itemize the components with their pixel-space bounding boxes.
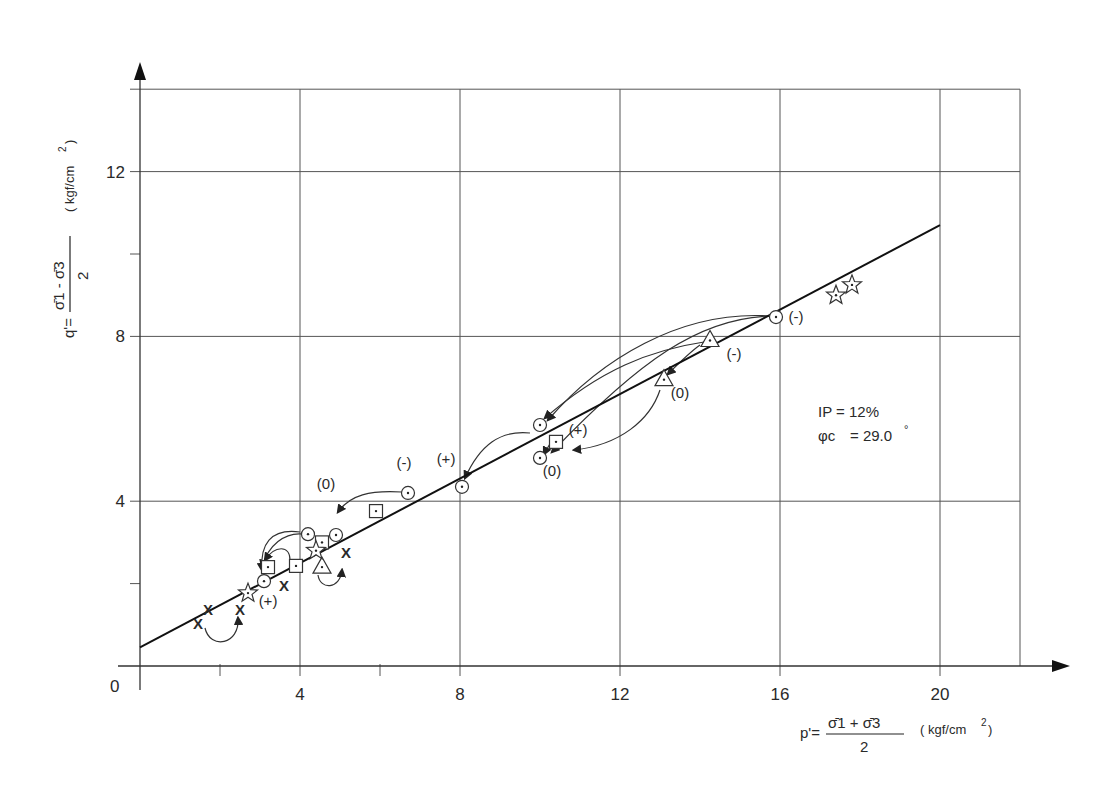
x-label-close: ) bbox=[988, 722, 992, 737]
path-label: (0) bbox=[317, 475, 335, 492]
x-marker-icon: X bbox=[203, 601, 213, 618]
marker-center-dot bbox=[375, 510, 377, 512]
path-label: (-) bbox=[397, 454, 412, 471]
y-axis-label: q'= σ̄1 - σ̄3 2 ( kgf/cm 2 ) bbox=[50, 140, 91, 338]
marker-center-dot bbox=[539, 457, 541, 459]
x-label-sup: 2 bbox=[981, 717, 987, 728]
stress-path-arrow bbox=[545, 342, 704, 418]
x-marker-icon: X bbox=[235, 601, 245, 618]
triangle-marker-icon bbox=[313, 557, 331, 573]
y-axis-arrow-icon bbox=[134, 62, 146, 80]
marker-center-dot bbox=[295, 565, 297, 567]
path-label: (-) bbox=[789, 308, 804, 325]
annotation-ip-phi: IP = 12% φc = 29.0 ° bbox=[818, 403, 908, 444]
marker-center-dot bbox=[709, 339, 711, 341]
stress-path-arrow bbox=[574, 390, 660, 450]
data-markers: XXXXX bbox=[193, 275, 862, 632]
x-marker-icon: X bbox=[193, 615, 203, 632]
x-label-numerator: σ̄1 + σ̄3 bbox=[828, 714, 880, 731]
y-label-close: ) bbox=[62, 140, 77, 144]
path-label: (+) bbox=[437, 450, 456, 467]
y-label-q: q'= bbox=[60, 318, 77, 338]
x-axis-label: p'= σ̄1 + σ̄3 2 ( kgf/cm 2 ) bbox=[800, 714, 992, 755]
marker-center-dot bbox=[539, 424, 541, 426]
x-axis-arrow-icon bbox=[1052, 660, 1070, 672]
y-label-unit: ( kgf/cm bbox=[62, 166, 77, 212]
marker-center-dot bbox=[461, 486, 463, 488]
path-label: (0) bbox=[671, 384, 689, 401]
x-label-denominator: 2 bbox=[860, 738, 868, 755]
marker-center-dot bbox=[835, 294, 837, 296]
stress-paths bbox=[205, 316, 770, 642]
marker-center-dot bbox=[307, 533, 309, 535]
x-label-p: p'= bbox=[800, 724, 820, 741]
path-label: (+) bbox=[259, 592, 278, 609]
x-label-unit: ( kgf/cm bbox=[920, 722, 966, 737]
annotation-phi-value: = 29.0 bbox=[850, 427, 892, 444]
x-marker-icon: X bbox=[341, 544, 351, 561]
triangle-marker-icon bbox=[701, 331, 719, 347]
y-label-sup: 2 bbox=[57, 146, 68, 152]
x-tick-label: 4 bbox=[295, 685, 304, 704]
y-label-numerator: σ̄1 - σ̄3 bbox=[50, 261, 67, 310]
marker-center-dot bbox=[555, 441, 557, 443]
x-tick-label: 20 bbox=[931, 685, 950, 704]
marker-center-dot bbox=[335, 534, 337, 536]
marker-center-dot bbox=[775, 316, 777, 318]
y-tick-label: 8 bbox=[116, 327, 125, 346]
stress-path-arrow bbox=[205, 618, 238, 642]
marker-center-dot bbox=[267, 566, 269, 568]
marker-center-dot bbox=[407, 492, 409, 494]
x-tick-label: 8 bbox=[455, 685, 464, 704]
x-tick-label: 16 bbox=[771, 685, 790, 704]
marker-center-dot bbox=[315, 549, 317, 551]
path-label: (-) bbox=[727, 345, 742, 362]
y-label-denominator: 2 bbox=[74, 272, 91, 280]
annotation-phi-symbol: φc bbox=[818, 427, 836, 444]
stress-path-arrow bbox=[548, 316, 770, 420]
marker-center-dot bbox=[247, 592, 249, 594]
x-marker-icon: X bbox=[279, 577, 289, 594]
y-tick-label: 12 bbox=[106, 163, 125, 182]
x-tick-label: 12 bbox=[611, 685, 630, 704]
path-label: (+) bbox=[569, 421, 588, 438]
path-label: (0) bbox=[543, 462, 561, 479]
marker-center-dot bbox=[851, 284, 853, 286]
path-labels: (-)(-)(-)(0)(0)(0)(+)(+)(+) bbox=[259, 308, 804, 609]
stress-path-arrow bbox=[265, 549, 290, 560]
annotation-degree: ° bbox=[904, 423, 908, 435]
marker-center-dot bbox=[263, 580, 265, 582]
chart: 0481216204812 XXXXX (-)(-)(-)(0)(0)(0)(+… bbox=[0, 0, 1113, 798]
tick-label-origin: 0 bbox=[110, 677, 119, 696]
annotation-ip: IP = 12% bbox=[818, 403, 879, 420]
marker-center-dot bbox=[321, 541, 323, 543]
y-tick-label: 4 bbox=[116, 492, 125, 511]
marker-center-dot bbox=[321, 566, 323, 568]
marker-center-dot bbox=[663, 378, 665, 380]
